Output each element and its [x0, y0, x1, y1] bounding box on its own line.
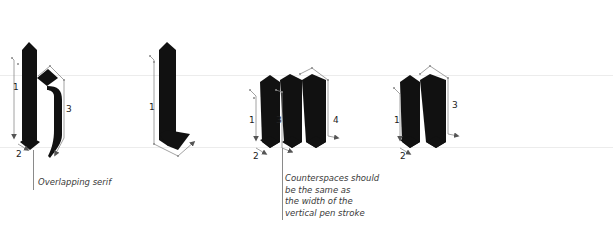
counterspaces-line-3: the width of the: [285, 196, 379, 208]
n-stroke-3-label: 3: [452, 100, 458, 110]
n-stroke-1-label: 1: [394, 115, 400, 125]
k-stroke-2-label: 2: [16, 149, 22, 159]
letter-l: 1: [149, 42, 194, 157]
overlapping-serif-caption: Overlapping serif: [38, 177, 111, 189]
counterspaces-leader-line: [282, 148, 283, 220]
letter-m: 1 2 3 4: [249, 67, 339, 161]
k-stroke-1-label: 1: [13, 82, 19, 92]
counterspaces-line-1: Counterspaces should: [285, 173, 379, 185]
letter-k: 1 2 3: [11, 42, 72, 159]
letter-construction-diagram: 1 2 3 1: [0, 0, 613, 228]
counterspaces-line-2: be the same as: [285, 185, 379, 197]
m-stroke-4-label: 4: [333, 115, 339, 125]
m-stroke-1-label: 1: [249, 115, 255, 125]
k-stroke-3-label: 3: [66, 104, 72, 114]
m-stroke-3-label: 3: [276, 115, 282, 125]
counterspaces-line-4: vertical pen stroke: [285, 208, 379, 220]
overlapping-serif-leader-line: [33, 150, 34, 190]
n-stroke-2-label: 2: [400, 151, 406, 161]
m-stroke-2-label: 2: [253, 151, 259, 161]
counterspaces-caption: Counterspaces should be the same as the …: [285, 173, 379, 219]
letter-n: 1 2 3: [393, 65, 458, 161]
l-stroke-1-label: 1: [149, 102, 155, 112]
